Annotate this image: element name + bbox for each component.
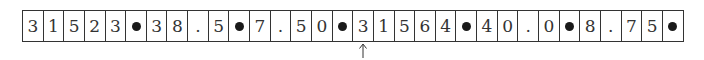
char-cell: . [271, 11, 292, 41]
cell-char: 5 [213, 16, 224, 36]
bullet-separator-icon [668, 22, 677, 31]
cell-char: 3 [151, 16, 162, 36]
char-cell: 0 [312, 11, 333, 41]
bullet-separator-icon [132, 22, 141, 31]
cell-char: 4 [440, 16, 451, 36]
cell-char: 5 [296, 16, 307, 36]
cell-char: 3 [110, 16, 121, 36]
char-cell: 1 [44, 11, 65, 41]
pointed-cell: 3 [353, 11, 374, 41]
separator-cell [229, 11, 250, 41]
char-cell: 0 [539, 11, 560, 41]
cell-char: 2 [89, 16, 100, 36]
separator-cell [663, 11, 684, 41]
bullet-separator-icon [235, 22, 244, 31]
char-cell: 2 [85, 11, 106, 41]
char-cell: 8 [167, 11, 188, 41]
cell-char: 5 [399, 16, 410, 36]
character-tape: 3152338.57.503156440.08.75 [22, 10, 684, 42]
char-cell: . [601, 11, 622, 41]
cell-char: 6 [420, 16, 431, 36]
separator-cell [456, 11, 477, 41]
separator-cell [560, 11, 581, 41]
separator-cell [333, 11, 354, 41]
bullet-separator-icon [462, 22, 471, 31]
char-cell: 7 [250, 11, 271, 41]
char-cell: . [188, 11, 209, 41]
cell-char: . [195, 16, 200, 36]
cell-char: 3 [27, 16, 38, 36]
cell-char: 1 [48, 16, 59, 36]
char-cell: 5 [291, 11, 312, 41]
cell-char: 0 [543, 16, 554, 36]
char-cell: 1 [374, 11, 395, 41]
char-cell: 6 [415, 11, 436, 41]
cell-char: 3 [358, 16, 369, 36]
cell-char: 5 [69, 16, 80, 36]
cell-char: 7 [254, 16, 265, 36]
cell-char: 5 [647, 16, 658, 36]
bullet-separator-icon [565, 22, 574, 31]
char-cell: 8 [580, 11, 601, 41]
char-cell: 5 [642, 11, 663, 41]
cell-char: . [608, 16, 613, 36]
char-cell: 4 [436, 11, 457, 41]
char-cell: 5 [395, 11, 416, 41]
char-cell: . [518, 11, 539, 41]
cell-char: . [278, 16, 283, 36]
char-cell: 3 [106, 11, 127, 41]
char-cell: 7 [622, 11, 643, 41]
cell-char: 1 [378, 16, 389, 36]
char-cell: 5 [64, 11, 85, 41]
cell-char: 8 [172, 16, 183, 36]
cell-char: 8 [585, 16, 596, 36]
cell-char: . [525, 16, 530, 36]
char-cell: 3 [147, 11, 168, 41]
bullet-separator-icon [338, 22, 347, 31]
separator-cell [126, 11, 147, 41]
char-cell: 4 [477, 11, 498, 41]
char-cell: 3 [23, 11, 44, 41]
char-cell: 5 [209, 11, 230, 41]
cell-char: 7 [626, 16, 637, 36]
cell-char: 0 [316, 16, 327, 36]
cell-char: 4 [482, 16, 493, 36]
up-arrow-icon [358, 43, 368, 58]
char-cell: 0 [498, 11, 519, 41]
cell-char: 0 [502, 16, 513, 36]
